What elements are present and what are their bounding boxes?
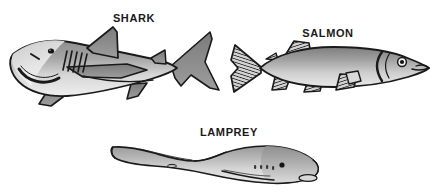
shark-eye	[48, 48, 54, 53]
shark-label: SHARK	[94, 12, 174, 24]
salmon-label: SALMON	[288, 27, 368, 39]
salmon-illustration	[230, 40, 435, 100]
salmon-pectoral-fin-upper	[346, 71, 361, 84]
salmon-pupil	[400, 60, 404, 64]
shark-illustration	[5, 26, 220, 112]
fish-comparison-figure: SHARK	[0, 0, 445, 192]
shark-caudal-fin	[171, 32, 219, 90]
lamprey-sucker-mouth	[299, 175, 317, 182]
lamprey-illustration	[110, 140, 325, 188]
shark-eye-highlight	[49, 50, 51, 51]
lamprey-vent	[168, 164, 177, 167]
lamprey-eye	[279, 162, 284, 167]
salmon-caudal-fin	[231, 45, 261, 92]
shark-second-dorsal-fin	[151, 50, 166, 64]
lamprey-label: LAMPREY	[183, 126, 275, 138]
